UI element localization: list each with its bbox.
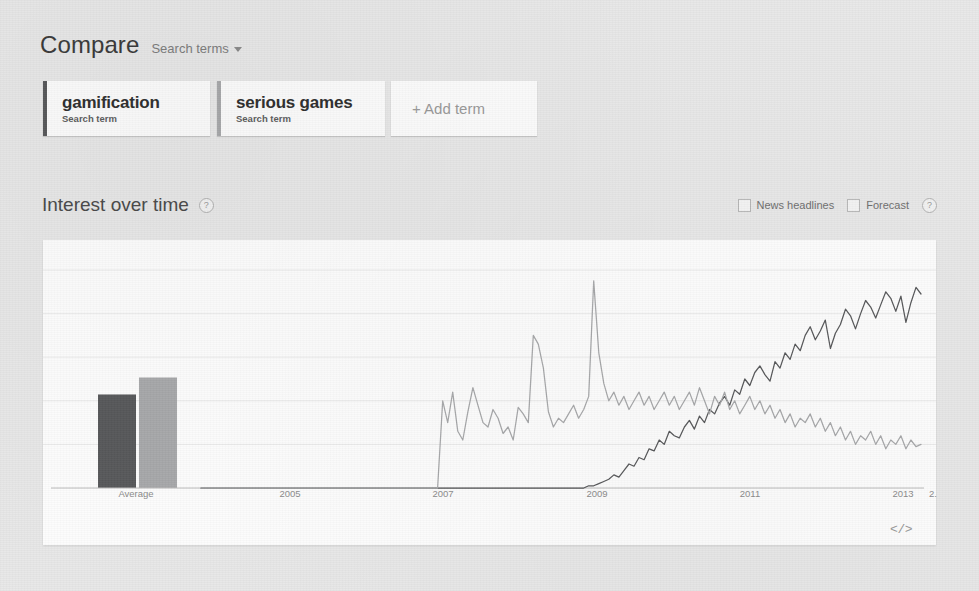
search-term-label: serious games bbox=[236, 93, 369, 112]
trends-chart[interactable] bbox=[43, 240, 936, 520]
compare-header: Compare Search terms bbox=[40, 31, 242, 59]
page-title: Compare bbox=[40, 31, 139, 59]
section-title: Interest over time bbox=[42, 194, 189, 216]
search-terms-dropdown-label: Search terms bbox=[151, 41, 228, 56]
forecast-checkbox[interactable]: Forecast bbox=[847, 199, 909, 212]
search-term-label: gamification bbox=[62, 93, 194, 112]
question-mark-icon[interactable]: ? bbox=[199, 198, 214, 213]
interest-over-time-header: Interest over time ? News headlines Fore… bbox=[42, 192, 937, 218]
checkbox-icon bbox=[847, 199, 860, 212]
news-headlines-label: News headlines bbox=[757, 199, 835, 211]
search-term-cards: gamification Search term serious games S… bbox=[43, 81, 537, 136]
forecast-label: Forecast bbox=[866, 199, 909, 211]
checkbox-icon bbox=[738, 199, 751, 212]
add-term-button[interactable]: + Add term bbox=[391, 81, 537, 136]
search-term-type: Search term bbox=[236, 113, 369, 125]
embed-code-icon[interactable]: </> bbox=[890, 522, 912, 537]
question-mark-icon[interactable]: ? bbox=[922, 198, 937, 213]
interest-over-time-chart-panel: Average200520072009201120132. </> bbox=[43, 240, 936, 545]
search-terms-dropdown[interactable]: Search terms bbox=[151, 41, 241, 56]
search-term-card-gamification[interactable]: gamification Search term bbox=[43, 81, 210, 136]
search-term-card-serious-games[interactable]: serious games Search term bbox=[217, 81, 385, 136]
add-term-label: + Add term bbox=[412, 100, 485, 117]
search-term-type: Search term bbox=[62, 113, 194, 125]
news-headlines-checkbox[interactable]: News headlines bbox=[738, 199, 835, 212]
chevron-down-icon bbox=[234, 47, 242, 52]
